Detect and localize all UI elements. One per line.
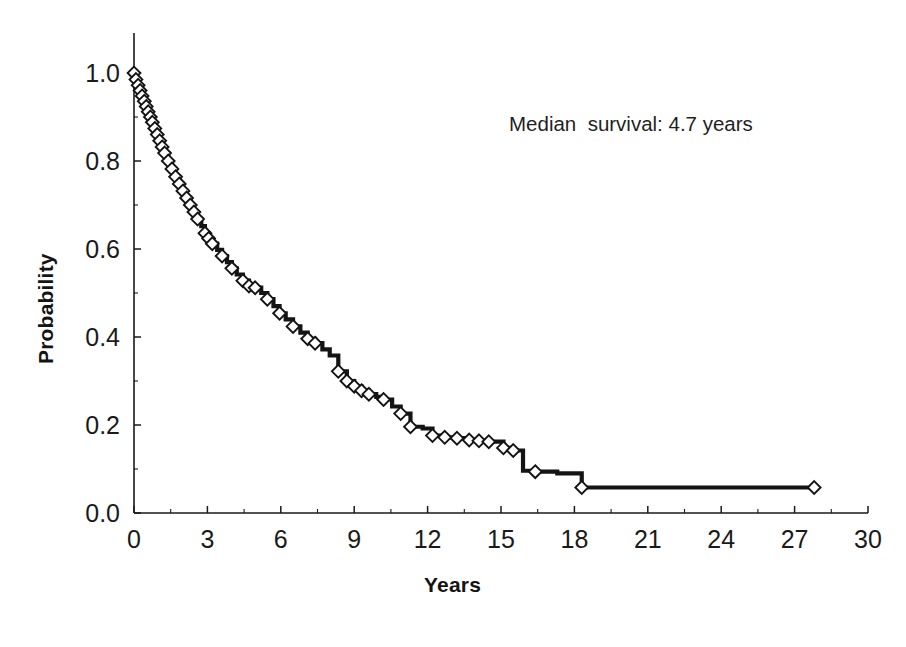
x-tick-label: 3 <box>200 525 214 553</box>
x-tick-label: 21 <box>634 525 662 553</box>
censor-diamond-marker <box>529 465 542 478</box>
censor-diamond-marker <box>482 435 495 448</box>
x-tick-label: 24 <box>707 525 735 553</box>
plot-canvas: 0369121518212427301.00.80.60.40.20.0 <box>0 0 906 647</box>
x-tick-label: 15 <box>487 525 515 553</box>
censor-diamond-marker <box>394 407 407 420</box>
x-tick-label: 12 <box>414 525 442 553</box>
censor-diamond-marker <box>426 429 439 442</box>
y-tick-label: 0.2 <box>85 411 120 439</box>
y-tick-label: 0.0 <box>85 499 120 527</box>
x-tick-label: 18 <box>560 525 588 553</box>
censor-diamond-marker <box>808 481 821 494</box>
x-tick-label: 0 <box>127 525 141 553</box>
median-survival-annotation: Median survival: 4.7 years <box>509 112 753 136</box>
y-tick-label: 1.0 <box>85 59 120 87</box>
y-tick-label: 0.6 <box>85 235 120 263</box>
y-axis-title: Probability <box>34 253 58 364</box>
censor-diamond-marker <box>575 481 588 494</box>
x-tick-label: 27 <box>781 525 809 553</box>
survival-chart-figure: 0369121518212427301.00.80.60.40.20.0 Pro… <box>0 0 906 647</box>
x-tick-label: 6 <box>274 525 288 553</box>
censor-diamond-marker <box>287 320 300 333</box>
censor-diamond-marker <box>404 420 417 433</box>
y-tick-label: 0.8 <box>85 147 120 175</box>
censor-diamond-marker <box>451 432 464 445</box>
x-axis-title: Years <box>424 573 481 597</box>
censor-diamond-marker <box>438 431 451 444</box>
censor-diamond-marker <box>332 365 345 378</box>
y-tick-label: 0.4 <box>85 323 120 351</box>
axis-tick-labels: 0369121518212427301.00.80.60.40.20.0 <box>85 59 882 553</box>
x-tick-label: 9 <box>347 525 361 553</box>
x-tick-label: 30 <box>854 525 882 553</box>
